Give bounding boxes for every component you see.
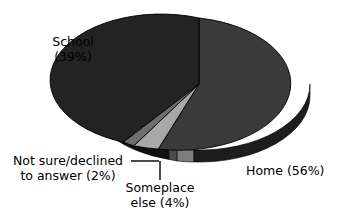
pie-label-not-sure: Not sure/declined to answer (2%)	[6, 153, 130, 183]
pie-label-someplace-else: Someplace else (4%)	[108, 180, 212, 210]
leader-lines	[131, 161, 160, 180]
pie-label-school-line1: School	[36, 34, 110, 49]
pie-label-school-line2: (39%)	[36, 49, 110, 64]
pie-chart-figure: School (39%) Home (56%) Not sure/decline…	[0, 0, 344, 218]
pie-label-home-line1: Home (56%)	[246, 163, 324, 178]
pie-label-not-sure-line1: Not sure/declined	[6, 153, 130, 168]
pie-label-someplace-else-line1: Someplace	[108, 180, 212, 195]
pie-label-home: Home (56%)	[246, 163, 324, 178]
pie-label-someplace-else-line2: else (4%)	[108, 195, 212, 210]
pie-label-school: School (39%)	[36, 34, 110, 64]
pie-side-someplace-else	[177, 149, 194, 162]
